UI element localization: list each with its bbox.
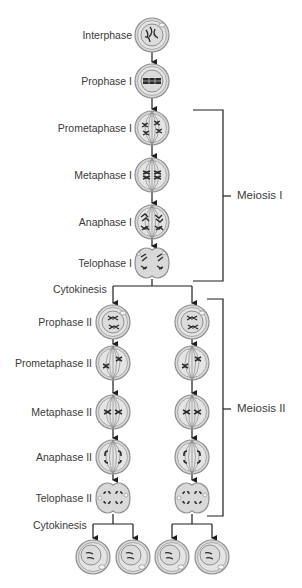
meiosis-ii-label: Meiosis II <box>237 402 286 415</box>
stage-label-interphase: Interphase <box>82 29 132 41</box>
metaphase-i-cell-icon <box>135 158 169 192</box>
telophase-i-cell-icon <box>135 248 169 278</box>
meiosis-i-label: Meiosis I <box>237 189 282 202</box>
haploid-cell-icon <box>195 540 229 574</box>
stage-label-prophase-i: Prophase I <box>81 75 132 87</box>
stage-label-metaphase-ii: Metaphase II <box>31 406 92 418</box>
haploid-cell-icon <box>116 540 150 574</box>
anaphase-ii-cell-icon <box>96 440 130 474</box>
final-haploid-cells <box>76 540 229 574</box>
stage-label-prometaphase-ii: Prometaphase II <box>15 357 92 369</box>
meiosis-diagram: Interphase Prophase I Prometaphase I Met… <box>0 0 302 588</box>
interphase-cell-icon <box>135 18 169 52</box>
meiosis1-bracket <box>193 110 231 281</box>
stage-label-telophase-ii: Telophase II <box>35 492 92 504</box>
stage-label-anaphase-i: Anaphase I <box>79 216 132 228</box>
cytokinesis-label-1: Cytokinesis <box>53 283 107 295</box>
stage-label-metaphase-i: Metaphase I <box>74 169 132 181</box>
telophase-ii-cell-icon <box>175 483 209 513</box>
stage-label-prometaphase-i: Prometaphase I <box>58 122 132 134</box>
prophase-i-cell-icon <box>135 64 169 98</box>
meiosis2-bracket <box>207 299 231 516</box>
prophase-ii-cell-icon <box>96 305 130 339</box>
meiosis2-right-column <box>175 305 209 513</box>
prophase-ii-cell-icon <box>175 305 209 339</box>
metaphase-ii-cell-icon <box>175 395 209 429</box>
stage-label-anaphase-ii: Anaphase II <box>36 451 92 463</box>
prometaphase-ii-cell-icon <box>175 346 209 380</box>
stage-label-prophase-ii: Prophase II <box>38 316 92 328</box>
anaphase-i-cell-icon <box>135 205 169 239</box>
prometaphase-ii-cell-icon <box>96 346 130 380</box>
telophase-ii-cell-icon <box>96 483 130 513</box>
haploid-cell-icon <box>155 540 189 574</box>
meiosis2-left-column <box>96 305 130 513</box>
cytokinesis-label-2: Cytokinesis <box>33 519 87 531</box>
stage-label-telophase-i: Telophase I <box>78 257 132 269</box>
prometaphase-i-cell-icon <box>135 111 169 145</box>
haploid-cell-icon <box>76 540 110 574</box>
anaphase-ii-cell-icon <box>175 440 209 474</box>
metaphase-ii-cell-icon <box>96 395 130 429</box>
